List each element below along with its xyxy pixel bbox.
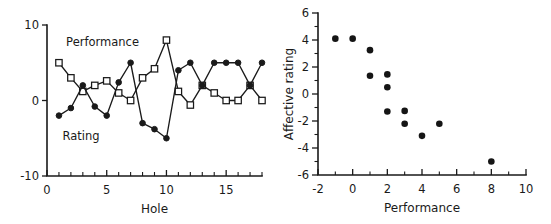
right-y-ticklabel: 2 [302,60,309,74]
left-marker-performance [235,97,241,103]
left-marker-performance [127,97,133,103]
right-y-ticklabel: 6 [302,6,309,20]
left-marker-rating [104,113,110,119]
left-marker-rating [259,60,265,66]
scatter-point [419,133,426,140]
left-marker-performance [92,82,98,88]
right-chart-root: -6-4-20246-20246810PerformanceAffective … [282,6,533,215]
scatter-point [367,72,374,79]
left-marker-rating [223,60,229,66]
left-series-label-rating: Rating [63,129,100,143]
left-marker-rating [128,60,134,66]
right-x-ticklabel: 10 [519,182,534,196]
left-marker-rating [80,83,86,89]
right-y-axis-title: Affective rating [282,48,296,140]
right-scatter-chart-panel: -6-4-20246-20246810PerformanceAffective … [280,0,551,224]
left-x-ticklabel: 10 [159,183,174,197]
scatter-point [436,120,443,127]
right-y-ticklabel: -6 [298,168,309,182]
left-marker-performance [151,66,157,72]
left-marker-rating [92,104,98,110]
left-series-label-performance: Performance [66,35,139,49]
left-x-ticklabel: 0 [43,183,50,197]
scatter-point [332,35,339,42]
left-line-chart-panel: -10010051015HolePerformanceRating [0,0,280,224]
left-marker-performance [104,78,110,84]
right-x-ticklabel: -2 [312,182,323,196]
right-y-ticklabel: 0 [302,87,309,101]
left-chart-root: -10010051015HolePerformanceRating [20,18,265,216]
right-axes [318,13,526,175]
left-y-ticklabel: 10 [24,18,39,32]
left-marker-performance [163,37,169,43]
left-marker-rating [164,135,170,141]
left-marker-performance [187,102,193,108]
two-panel-figure: -10010051015HolePerformanceRating -6-4-2… [0,0,551,224]
right-x-ticklabel: 2 [384,182,391,196]
left-y-ticklabel: 0 [32,94,39,108]
left-marker-rating [235,60,241,66]
left-marker-rating [56,113,62,119]
left-marker-rating [140,120,146,126]
left-x-ticklabel: 15 [219,183,234,197]
left-marker-rating [199,83,205,89]
left-marker-rating [176,68,182,74]
scatter-point [384,84,391,91]
left-marker-performance [68,75,74,81]
right-x-ticklabel: 0 [349,182,356,196]
left-line-chart: -10010051015HolePerformanceRating [0,0,280,224]
left-x-axis-title: Hole [141,202,168,216]
left-marker-rating [211,60,217,66]
left-marker-rating [188,60,194,66]
right-x-ticklabel: 4 [418,182,425,196]
scatter-point [401,108,408,115]
left-x-ticklabel: 5 [103,183,110,197]
scatter-point [384,71,391,78]
scatter-point [384,108,391,115]
left-marker-rating [247,83,253,89]
left-y-ticklabel: -10 [20,169,39,183]
left-marker-rating [152,126,158,132]
left-marker-performance [56,60,62,66]
scatter-point [488,158,495,165]
left-marker-performance [259,97,265,103]
right-y-ticklabel: -2 [298,114,309,128]
left-marker-performance [115,90,121,96]
left-marker-performance [211,90,217,96]
scatter-point [401,120,408,127]
right-scatter-chart: -6-4-20246-20246810PerformanceAffective … [280,0,551,224]
right-x-ticklabel: 6 [453,182,460,196]
right-x-axis-title: Performance [384,201,460,215]
scatter-point [349,35,356,42]
right-y-ticklabel: 4 [302,33,309,47]
left-marker-rating [68,105,74,111]
left-marker-performance [223,97,229,103]
right-x-ticklabel: 8 [488,182,495,196]
right-y-ticklabel: -4 [298,141,309,155]
left-marker-performance [175,88,181,94]
left-series-line-performance [59,40,262,105]
scatter-point [367,47,374,54]
left-marker-performance [139,75,145,81]
left-marker-rating [116,80,122,86]
